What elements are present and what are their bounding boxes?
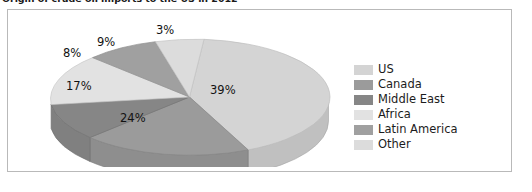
pie-area: 39% 24% 17% 8% 9% 3% [41, 22, 341, 167]
pie-svg [41, 22, 341, 167]
pie-chart-figure: Origin of crude oil imports to the US in… [0, 0, 532, 192]
legend-item-africa[interactable]: Africa [354, 107, 504, 122]
pie-value-label-canada: 24% [120, 113, 146, 125]
pie-top-face [50, 39, 329, 155]
legend-swatch-icon-us [354, 65, 373, 75]
pie-value-label-africa: 8% [63, 48, 81, 60]
legend-swatch-icon-latin-america [354, 125, 373, 135]
plot-frame: 39% 24% 17% 8% 9% 3% US Canada Middle Ea… [7, 9, 512, 172]
legend-item-canada[interactable]: Canada [354, 77, 504, 92]
legend-label-latin-america: Latin America [378, 124, 458, 136]
pie-value-label-other: 3% [156, 25, 174, 37]
legend-item-us[interactable]: US [354, 62, 504, 77]
legend-label-canada: Canada [378, 79, 422, 91]
legend-item-other[interactable]: Other [354, 137, 504, 152]
legend-swatch-icon-middle-east [354, 95, 373, 105]
legend-label-other: Other [378, 139, 411, 151]
legend-swatch-icon-other [354, 140, 373, 150]
legend-label-middle-east: Middle East [378, 94, 444, 106]
legend-item-latin-america[interactable]: Latin America [354, 122, 504, 137]
legend-swatch-icon-africa [354, 110, 373, 120]
legend-swatch-icon-canada [354, 80, 373, 90]
legend: US Canada Middle East Africa Latin Ameri… [354, 62, 504, 152]
page-title: Origin of crude oil imports to the US in… [2, 0, 302, 5]
pie-value-label-us: 39% [210, 85, 236, 97]
pie-value-label-middle-east: 17% [66, 81, 92, 93]
legend-label-us: US [378, 64, 394, 76]
legend-item-middle-east[interactable]: Middle East [354, 92, 504, 107]
pie-value-label-latin-america: 9% [97, 37, 115, 49]
legend-label-africa: Africa [378, 109, 411, 121]
